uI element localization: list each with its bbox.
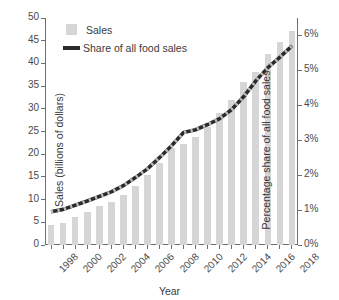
y-tick-left-label: 30: [28, 102, 39, 114]
tick-mark-icon: [51, 245, 52, 249]
tick-mark-icon: [298, 175, 302, 176]
tick-mark-icon: [243, 245, 244, 249]
tick-mark-icon: [41, 63, 45, 64]
legend-swatch-icon-sales: [66, 24, 77, 35]
tick-mark-icon: [41, 108, 45, 109]
y-tick-left-label: 50: [28, 11, 39, 23]
y-tick-right-label: 0%: [304, 238, 318, 250]
legend-line-icon-share: [63, 46, 80, 50]
y-tick-right-label: 3%: [304, 133, 318, 145]
y-tick-right-label: 1%: [304, 203, 318, 215]
tick-mark-icon: [195, 245, 196, 249]
x-tick-label: 2002: [105, 251, 129, 275]
y-tick-left-label: 0: [33, 238, 39, 250]
tick-mark-icon: [41, 199, 45, 200]
x-tick-label: 2008: [177, 251, 201, 275]
x-tick-label: 2014: [249, 251, 273, 275]
tick-mark-icon: [171, 245, 172, 249]
y-tick-right-label: 5%: [304, 63, 318, 75]
y-axis-right-title: Percentage share of all food sales: [261, 71, 273, 230]
tick-mark-icon: [135, 245, 136, 249]
tick-mark-icon: [298, 140, 302, 141]
x-tick-label: 2000: [81, 251, 105, 275]
tick-mark-icon: [298, 105, 302, 106]
tick-mark-icon: [291, 245, 292, 249]
tick-mark-icon: [267, 245, 268, 249]
y-tick-left-label: 45: [28, 34, 39, 46]
y-tick-right-label: 2%: [304, 168, 318, 180]
tick-mark-icon: [279, 245, 280, 249]
tick-mark-icon: [41, 176, 45, 177]
tick-mark-icon: [207, 245, 208, 249]
legend-label-sales: Sales: [86, 24, 112, 36]
y-tick-left-label: 10: [28, 193, 39, 205]
legend-item-sales: Sales: [66, 22, 187, 37]
x-tick-label: 2004: [129, 251, 153, 275]
x-tick-label: 2006: [153, 251, 177, 275]
tick-mark-icon: [111, 245, 112, 249]
tick-mark-icon: [41, 40, 45, 41]
y-axis-left-title: Sales (billions of dollars): [53, 93, 65, 207]
tick-mark-icon: [231, 245, 232, 249]
tick-mark-icon: [87, 245, 88, 249]
tick-mark-icon: [41, 86, 45, 87]
tick-mark-icon: [298, 210, 302, 211]
y-tick-left-label: 25: [28, 125, 39, 137]
chart-legend: Sales Share of all food sales: [66, 22, 187, 58]
tick-mark-icon: [41, 222, 45, 223]
tick-mark-icon: [41, 245, 45, 246]
y-tick-left-label: 20: [28, 147, 39, 159]
y-tick-left-label: 35: [28, 79, 39, 91]
tick-mark-icon: [298, 70, 302, 71]
x-tick-label: 2018: [297, 251, 321, 275]
tick-mark-icon: [183, 245, 184, 249]
tick-mark-icon: [63, 245, 64, 249]
x-tick-label: 2012: [225, 251, 249, 275]
tick-mark-icon: [298, 35, 302, 36]
legend-label-share: Share of all food sales: [83, 42, 187, 54]
x-axis-title: Year: [0, 285, 339, 297]
legend-item-share: Share of all food sales: [66, 40, 187, 55]
tick-mark-icon: [41, 131, 45, 132]
tick-mark-icon: [159, 245, 160, 249]
x-tick-label: 2016: [273, 251, 297, 275]
tick-mark-icon: [255, 245, 256, 249]
y-tick-right-label: 4%: [304, 98, 318, 110]
y-tick-left-label: 40: [28, 56, 39, 68]
tick-mark-icon: [219, 245, 220, 249]
x-tick-label: 1998: [57, 251, 81, 275]
chart-container: 05101520253035404550 0%1%2%3%4%5%6% 1998…: [0, 0, 339, 300]
tick-mark-icon: [99, 245, 100, 249]
y-tick-left-label: 5: [33, 215, 39, 227]
tick-mark-icon: [75, 245, 76, 249]
x-tick-label: 2010: [201, 251, 225, 275]
tick-mark-icon: [41, 18, 45, 19]
y-tick-right-label: 6%: [304, 28, 318, 40]
tick-mark-icon: [147, 245, 148, 249]
tick-mark-icon: [123, 245, 124, 249]
tick-mark-icon: [41, 154, 45, 155]
y-tick-left-label: 15: [28, 170, 39, 182]
tick-mark-icon: [298, 245, 302, 246]
